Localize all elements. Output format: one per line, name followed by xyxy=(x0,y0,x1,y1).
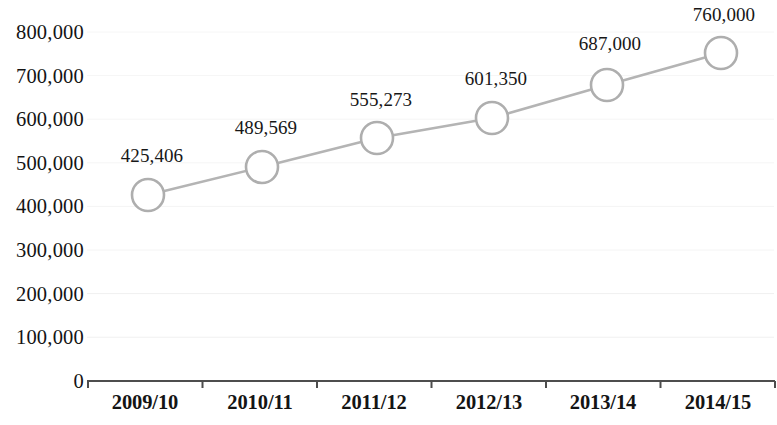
x-tick-label: 2011/12 xyxy=(341,392,406,413)
data-point-marker[interactable] xyxy=(361,122,393,154)
x-tick-label: 2012/13 xyxy=(456,392,523,413)
line-chart: 800,000 700,000 600,000 500,000 400,000 … xyxy=(0,0,777,425)
data-point-marker[interactable] xyxy=(132,179,164,211)
data-label: 555,273 xyxy=(350,90,412,109)
x-tick-label: 2009/10 xyxy=(112,392,179,413)
x-tick-label: 2014/15 xyxy=(685,392,752,413)
data-point-marker[interactable] xyxy=(705,37,737,69)
data-label: 687,000 xyxy=(579,34,641,53)
data-label: 425,406 xyxy=(121,146,183,165)
data-point-marker[interactable] xyxy=(591,69,623,101)
data-label: 760,000 xyxy=(693,5,755,24)
x-axis xyxy=(87,381,775,388)
x-tick-label: 2010/11 xyxy=(227,392,292,413)
data-point-markers xyxy=(132,37,737,211)
data-label: 489,569 xyxy=(235,118,297,137)
data-point-marker[interactable] xyxy=(476,102,508,134)
x-tick-label: 2013/14 xyxy=(570,392,637,413)
data-label: 601,350 xyxy=(465,69,527,88)
data-point-marker[interactable] xyxy=(246,151,278,183)
plot-area xyxy=(0,0,777,425)
